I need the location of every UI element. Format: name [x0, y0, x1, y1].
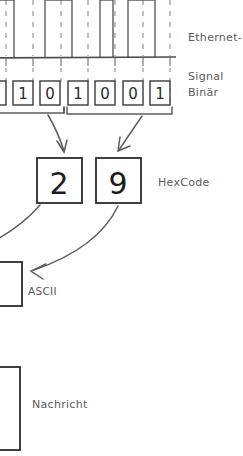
binary-digit: 0 [128, 85, 138, 103]
ascii-label: ASCII [28, 285, 57, 298]
diagram-root: 1 0 1 0 0 1 2 9 [0, 0, 243, 456]
ethernet-signal-label-line2: Signal [188, 70, 242, 83]
ascii-arrow-b-shaft [34, 206, 118, 270]
ascii-box [0, 262, 22, 306]
brace-to-hex-arrows [48, 115, 142, 152]
ethernet-signal-label-line1: Ethernet- [188, 31, 242, 44]
binary-digit: 0 [45, 85, 55, 103]
arrow-right-shaft [119, 116, 142, 150]
nachricht-box [0, 367, 20, 450]
binary-grouping-braces [0, 107, 172, 114]
hexcode-label: HexCode [158, 176, 210, 189]
brace-left [0, 107, 64, 113]
ascii-box-group [0, 262, 22, 306]
nachricht-box-group [0, 367, 20, 450]
brace-right [67, 107, 172, 114]
binary-digit: 1 [73, 85, 83, 103]
binary-digit: 1 [155, 85, 165, 103]
binary-label: Binär [188, 86, 218, 99]
hex-digit: 2 [49, 166, 68, 201]
binary-box-partial [0, 81, 6, 105]
ethernet-signal-waveform [0, 0, 155, 58]
binary-digit: 0 [100, 85, 110, 103]
ascii-arrow-a-shaft [0, 205, 40, 243]
hex-digit: 9 [108, 166, 127, 201]
arrow-left-shaft [48, 115, 64, 151]
signal-baseline [0, 57, 176, 58]
binary-digit: 1 [18, 85, 28, 103]
signal-gridlines [6, 0, 170, 56]
nachricht-label: Nachricht [32, 398, 88, 411]
hex-digit-group: 2 9 [49, 166, 127, 201]
baseline-tick-marks [6, 58, 170, 66]
